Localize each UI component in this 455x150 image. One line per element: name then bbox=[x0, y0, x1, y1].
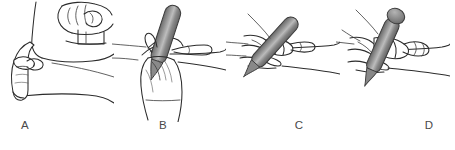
panel-a-pinching-hand bbox=[12, 42, 44, 100]
figure-panel-a: A bbox=[0, 0, 114, 150]
panel-a-inset-closeup bbox=[58, 2, 113, 44]
panel-c-needle-line bbox=[248, 14, 270, 38]
panel-b-artwork bbox=[112, 0, 226, 122]
panel-d-needle-line bbox=[342, 10, 378, 41]
figure-panel-c: C bbox=[226, 0, 340, 150]
panel-b-label: B bbox=[106, 118, 220, 132]
panel-c-artwork bbox=[226, 0, 340, 122]
panel-d-artwork bbox=[336, 0, 450, 122]
panel-a-artwork bbox=[0, 0, 114, 122]
syringe-barrel-b bbox=[149, 3, 183, 65]
figure-panel-b: B bbox=[112, 0, 226, 150]
figure-panel-d: D bbox=[336, 0, 450, 150]
panel-d-label: D bbox=[372, 118, 455, 132]
figure-sheet: A bbox=[0, 0, 455, 150]
panel-a-label: A bbox=[0, 118, 82, 132]
